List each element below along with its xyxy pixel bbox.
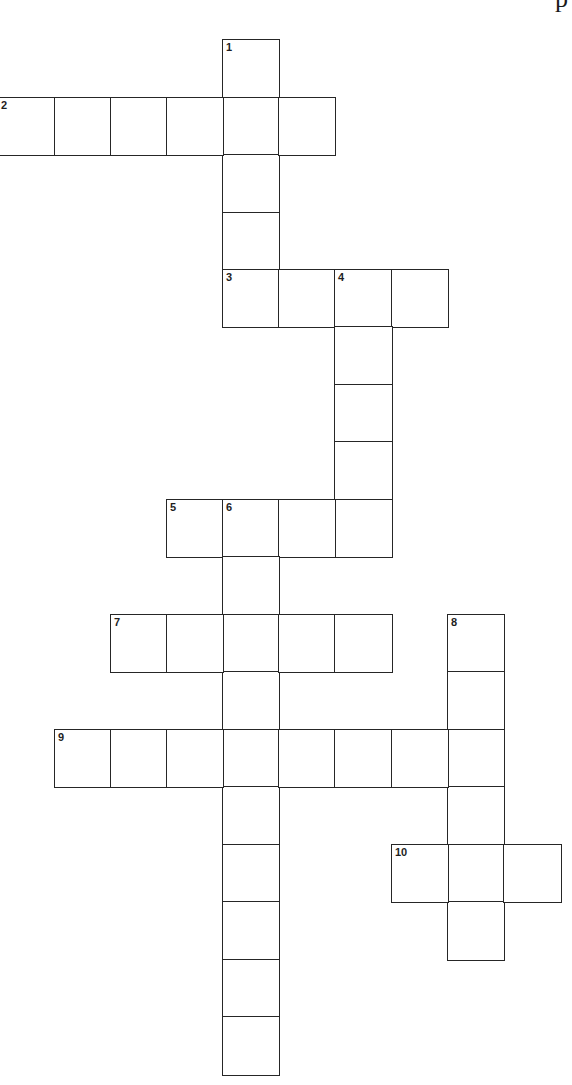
cell-letter-input[interactable] bbox=[223, 1017, 279, 1075]
crossword-cell[interactable]: 5 bbox=[166, 499, 224, 558]
cell-letter-input[interactable] bbox=[223, 902, 279, 960]
crossword-cell[interactable] bbox=[334, 326, 393, 386]
cell-letter-input[interactable] bbox=[223, 787, 279, 845]
cell-letter-input[interactable] bbox=[279, 98, 335, 155]
crossword-cell[interactable] bbox=[334, 441, 393, 501]
cell-letter-input[interactable] bbox=[335, 385, 392, 442]
crossword-cell[interactable] bbox=[278, 729, 336, 788]
crossword-cell[interactable] bbox=[447, 844, 505, 903]
crossword-cell[interactable] bbox=[222, 671, 280, 731]
crossword-cell[interactable] bbox=[391, 729, 449, 788]
cell-letter-input[interactable] bbox=[448, 615, 504, 672]
cell-letter-input[interactable] bbox=[223, 960, 279, 1017]
crossword-cell[interactable] bbox=[447, 901, 505, 961]
cell-letter-input[interactable] bbox=[392, 730, 448, 787]
crossword-cell[interactable] bbox=[278, 97, 336, 156]
cell-letter-input[interactable] bbox=[504, 845, 561, 902]
cell-letter-input[interactable] bbox=[223, 155, 279, 213]
crossword-cell[interactable]: 9 bbox=[54, 729, 112, 788]
cell-letter-input[interactable] bbox=[223, 615, 279, 672]
cell-letter-input[interactable] bbox=[167, 730, 223, 787]
cell-letter-input[interactable] bbox=[335, 270, 392, 327]
cell-letter-input[interactable] bbox=[335, 442, 392, 500]
cell-letter-input[interactable] bbox=[335, 730, 392, 787]
cell-letter-input[interactable] bbox=[223, 500, 279, 557]
crossword-cell[interactable] bbox=[222, 154, 280, 214]
cell-letter-input[interactable] bbox=[335, 327, 392, 385]
cell-letter-input[interactable] bbox=[448, 730, 504, 787]
crossword-cell[interactable] bbox=[447, 786, 505, 846]
crossword-cell[interactable] bbox=[166, 729, 224, 788]
crossword-cell[interactable] bbox=[222, 97, 280, 156]
crossword-cell[interactable] bbox=[110, 97, 168, 156]
crossword-cell[interactable] bbox=[334, 729, 393, 788]
crossword-cell[interactable] bbox=[222, 556, 280, 616]
crossword-cell[interactable]: 4 bbox=[334, 269, 393, 328]
crossword-cell[interactable] bbox=[222, 212, 280, 271]
cell-letter-input[interactable] bbox=[448, 787, 504, 845]
crossword-cell[interactable] bbox=[447, 671, 505, 731]
crossword-cell[interactable]: 1 bbox=[222, 39, 280, 99]
cell-letter-input[interactable] bbox=[279, 500, 335, 557]
cell-letter-input[interactable] bbox=[448, 672, 504, 730]
cell-letter-input[interactable] bbox=[448, 902, 504, 960]
cell-letter-input[interactable] bbox=[55, 98, 111, 155]
crossword-cell[interactable] bbox=[222, 959, 280, 1018]
crossword-cell[interactable]: 7 bbox=[110, 614, 168, 673]
cell-letter-input[interactable] bbox=[223, 270, 279, 327]
cell-letter-input[interactable] bbox=[223, 845, 279, 902]
cell-letter-input[interactable] bbox=[55, 730, 111, 787]
cell-letter-input[interactable] bbox=[111, 730, 167, 787]
crossword-cell[interactable] bbox=[222, 844, 280, 903]
cell-letter-input[interactable] bbox=[111, 615, 167, 672]
cell-letter-input[interactable] bbox=[223, 730, 279, 787]
crossword-cell[interactable] bbox=[334, 384, 393, 443]
crossword-cell[interactable] bbox=[166, 614, 224, 673]
crossword-cell[interactable] bbox=[54, 97, 112, 156]
crossword-cell[interactable]: 2 bbox=[0, 97, 56, 156]
cell-letter-input[interactable] bbox=[279, 615, 335, 672]
cell-letter-input[interactable] bbox=[448, 845, 504, 902]
crossword-cell[interactable] bbox=[222, 1016, 280, 1076]
crossword-cell[interactable] bbox=[222, 786, 280, 846]
cell-letter-input[interactable] bbox=[392, 845, 448, 902]
crossword-cell[interactable] bbox=[391, 269, 449, 328]
crossword-cell[interactable] bbox=[222, 614, 280, 673]
crossword-cell[interactable]: 10 bbox=[391, 844, 449, 903]
cell-letter-input[interactable] bbox=[223, 98, 279, 155]
cell-letter-input[interactable] bbox=[111, 98, 167, 155]
crossword-cell[interactable] bbox=[166, 97, 224, 156]
crossword-cell[interactable] bbox=[334, 614, 393, 673]
crossword-cell[interactable] bbox=[447, 729, 505, 788]
crossword-cell[interactable] bbox=[278, 614, 336, 673]
crossword-cell[interactable]: 3 bbox=[222, 269, 280, 328]
cell-letter-input[interactable] bbox=[335, 615, 392, 672]
cell-letter-input[interactable] bbox=[167, 615, 223, 672]
cell-letter-input[interactable] bbox=[0, 98, 55, 155]
crossword-cell[interactable] bbox=[278, 269, 336, 328]
crossword-cell[interactable] bbox=[334, 499, 393, 558]
cell-letter-input[interactable] bbox=[335, 500, 392, 557]
crossword-cell[interactable] bbox=[222, 729, 280, 788]
cell-letter-input[interactable] bbox=[223, 557, 279, 615]
crossword-cell[interactable]: 8 bbox=[447, 614, 505, 673]
crossword-cell[interactable] bbox=[222, 901, 280, 961]
crossword-cell[interactable] bbox=[278, 499, 336, 558]
cell-letter-input[interactable] bbox=[223, 213, 279, 270]
crossword-cell[interactable] bbox=[503, 844, 562, 903]
cell-letter-input[interactable] bbox=[392, 270, 448, 327]
crossword-cell[interactable]: 6 bbox=[222, 499, 280, 558]
crossword-grid: 13245678910 bbox=[0, 0, 572, 1085]
crossword-cell[interactable] bbox=[110, 729, 168, 788]
cell-letter-input[interactable] bbox=[279, 270, 335, 327]
cell-letter-input[interactable] bbox=[223, 40, 279, 98]
cell-letter-input[interactable] bbox=[279, 730, 335, 787]
cell-letter-input[interactable] bbox=[167, 98, 223, 155]
cell-letter-input[interactable] bbox=[167, 500, 223, 557]
cell-letter-input[interactable] bbox=[223, 672, 279, 730]
